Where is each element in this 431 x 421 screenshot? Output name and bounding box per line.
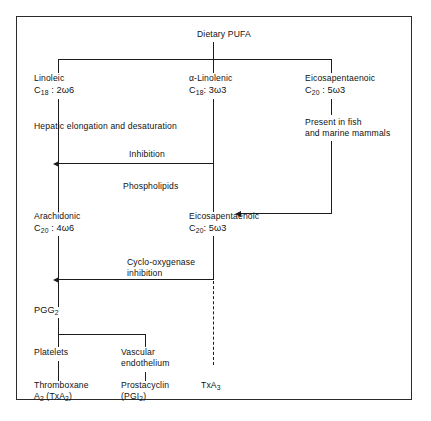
epa-mid-formula-rest: : 5ω3: [204, 223, 227, 233]
node-vascular-endothelium-line2: endothelium: [121, 358, 169, 369]
arrowhead-cyclo-oxygenase: [53, 277, 59, 283]
node-eicosapentaenoic-mid-name: Eicosapentaenoic: [189, 211, 259, 222]
arachidonic-formula-c: C: [34, 223, 41, 233]
node-linoleic-formula: C18 : 2ω6: [34, 85, 74, 96]
connector-platelets-to-thromboxane: [58, 361, 59, 381]
connector-drop-platelets: [58, 334, 59, 347]
node-alpha-linolenic-name: α-Linolenic: [189, 73, 232, 84]
thromboxane-a: A: [34, 391, 40, 401]
linoleic-formula-carbons: 18: [41, 89, 49, 96]
thromboxane-sub-2: 2: [65, 395, 69, 402]
figure-border: Dietary PUFA Linoleic C18 : 2ω6 α-Linole…: [16, 16, 412, 400]
connector-arachidonic-to-pgg2: [58, 236, 59, 307]
node-platelets: Platelets: [34, 347, 68, 358]
alpha-linolenic-formula-carbons: 18: [196, 89, 204, 96]
epa-top-formula-c: C: [305, 85, 312, 95]
caption-inhibition: Inhibition: [129, 149, 165, 160]
thromboxane-paren-open: (TxA: [44, 391, 65, 401]
connector-alpha-linolenic-down: [213, 99, 214, 212]
node-arachidonic-formula: C20 : 4ω6: [34, 223, 74, 234]
alpha-linolenic-formula-rest: : 3ω3: [204, 85, 227, 95]
connector-drop-vascular-endothelium: [145, 334, 146, 347]
connector-distribution-bar: [58, 59, 332, 60]
node-txa3: TxA3: [201, 380, 221, 391]
linoleic-formula-rest: : 2ω6: [49, 85, 75, 95]
connector-linoleic-to-arachidonic: [58, 99, 59, 212]
connector-epa-top-stem-lower: [331, 141, 332, 214]
connector-drop-eicosapentaenoic: [331, 59, 332, 73]
connector-drop-alpha-linolenic: [213, 59, 214, 73]
arrowhead-inhibition: [53, 161, 59, 167]
caption-phospholipids: Phospholipids: [123, 181, 178, 192]
epa-top-formula-rest: : 5ω3: [320, 85, 346, 95]
epa-mid-formula-carbons: 20: [196, 227, 204, 234]
epa-mid-formula-c: C: [189, 223, 196, 233]
txa3-sub: 3: [217, 384, 221, 391]
caption-cyclo-oxygenase-line1: Cyclo-oxygenase: [127, 257, 195, 268]
node-eicosapentaenoic-top-name: Eicosapentaenoic: [305, 73, 375, 84]
node-alpha-linolenic-formula: C18: 3ω3: [189, 85, 227, 96]
node-thromboxane-line2: A2 (TxA2): [34, 391, 72, 402]
figure-page: Dietary PUFA Linoleic C18 : 2ω6 α-Linole…: [0, 0, 431, 421]
arachidonic-formula-carbons: 20: [41, 227, 49, 234]
prostacyclin-paren-close: ): [143, 391, 146, 401]
connector-cyclo-oxygenase-horizontal: [59, 279, 214, 280]
caption-present-in-fish-line2: and marine mammals: [305, 128, 390, 139]
thromboxane-paren-close: ): [69, 391, 72, 401]
node-vascular-endothelium-line1: Vascular: [121, 347, 155, 358]
node-arachidonic-name: Arachidonic: [34, 211, 81, 222]
node-eicosapentaenoic-mid-formula: C20: 5ω3: [189, 223, 227, 234]
connector-dashed-to-txa3: [213, 281, 214, 365]
connector-drop-linoleic: [58, 59, 59, 73]
prostacyclin-sub: 2: [139, 395, 143, 402]
node-prostacyclin-line1: Prostacyclin: [121, 380, 169, 391]
node-pgg2: PGG2: [34, 305, 59, 316]
node-linoleic-name: Linoleic: [34, 73, 64, 84]
txa3-name: TxA: [201, 380, 217, 390]
connector-epa-mid-down: [213, 236, 214, 280]
prostacyclin-paren-open: (PGI: [121, 391, 139, 401]
linoleic-formula-c: C: [34, 85, 41, 95]
pgg2-sub: 2: [55, 309, 59, 316]
arachidonic-formula-rest: : 4ω6: [49, 223, 75, 233]
alpha-linolenic-formula-c: C: [189, 85, 196, 95]
connector-epa-top-stem-upper: [331, 99, 332, 115]
node-prostacyclin-line2: (PGI2): [121, 391, 146, 402]
caption-present-in-fish-line1: Present in fish: [305, 117, 362, 128]
caption-cyclo-oxygenase-line2: inhibition: [127, 268, 162, 279]
connector-pgg2-split-bar: [58, 334, 146, 335]
connector-dietary-pufa-stem: [213, 42, 214, 60]
pgg2-name: PGG: [34, 305, 55, 315]
node-eicosapentaenoic-top-formula: C20 : 5ω3: [305, 85, 345, 96]
thromboxane-sub-1: 2: [40, 395, 44, 402]
epa-top-formula-carbons: 20: [312, 89, 320, 96]
node-thromboxane-line1: Thromboxane: [34, 380, 89, 391]
connector-inhibition-horizontal: [59, 163, 214, 164]
connector-pgg2-stem: [58, 318, 59, 335]
caption-hepatic-elongation: Hepatic elongation and desaturation: [34, 121, 177, 132]
node-dietary-pufa: Dietary PUFA: [197, 29, 251, 40]
